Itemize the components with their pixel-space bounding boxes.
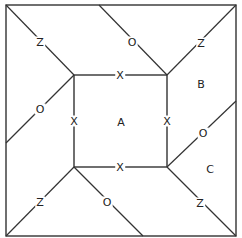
label-a-region: A <box>116 117 126 128</box>
label-x-left: X <box>69 116 79 127</box>
label-b-region: B <box>196 79 206 90</box>
label-z-top-right: Z <box>196 38 206 49</box>
label-c-region: C <box>205 164 215 175</box>
label-z-bottom-right: Z <box>195 198 205 209</box>
label-x-right: X <box>162 116 172 127</box>
label-z-top-left: Z <box>35 37 45 48</box>
label-z-bottom-left: Z <box>35 197 45 208</box>
label-o-left: O <box>35 104 46 115</box>
label-x-bottom: X <box>115 162 125 173</box>
diagram-canvas: ZOZXBOXAXOXCZOZ <box>0 0 242 238</box>
label-o-bottom: O <box>102 197 113 208</box>
label-x-top: X <box>115 70 125 81</box>
label-o-top: O <box>127 37 138 48</box>
label-o-right: O <box>198 128 209 139</box>
